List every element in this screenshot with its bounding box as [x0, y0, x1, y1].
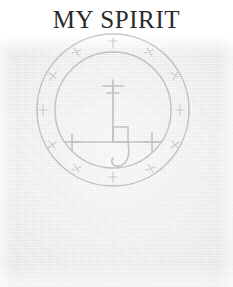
paper-grain-texture	[0, 38, 233, 287]
page-title: MY SPIRIT	[53, 7, 180, 32]
spirit-page: MY SPIRIT	[0, 0, 233, 287]
title-area: MY SPIRIT	[0, 0, 233, 38]
scanned-image-plate	[0, 38, 233, 287]
